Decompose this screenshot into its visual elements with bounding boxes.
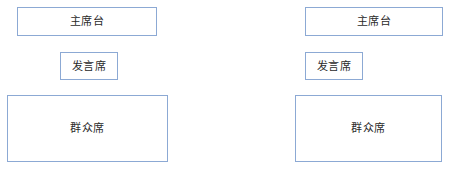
right-audience-seating-box[interactable]: 群众席 xyxy=(295,95,442,162)
left-rostrum-box[interactable]: 主席台 xyxy=(17,7,157,36)
right-speaker-stand-box[interactable]: 发言席 xyxy=(305,52,363,80)
left-rostrum-label: 主席台 xyxy=(70,16,104,27)
right-rostrum-box[interactable]: 主席台 xyxy=(305,7,443,36)
seating-diagram-right: 主席台 发言席 群众席 xyxy=(228,0,456,173)
left-speaker-stand-box[interactable]: 发言席 xyxy=(60,52,118,80)
right-audience-seating-label: 群众席 xyxy=(351,123,385,134)
seating-diagram-left: 主席台 发言席 群众席 xyxy=(0,0,228,173)
right-rostrum-label: 主席台 xyxy=(357,16,391,27)
right-speaker-stand-label: 发言席 xyxy=(317,61,351,72)
left-audience-seating-label: 群众席 xyxy=(70,123,104,134)
left-speaker-stand-label: 发言席 xyxy=(72,61,106,72)
left-audience-seating-box[interactable]: 群众席 xyxy=(7,95,168,162)
